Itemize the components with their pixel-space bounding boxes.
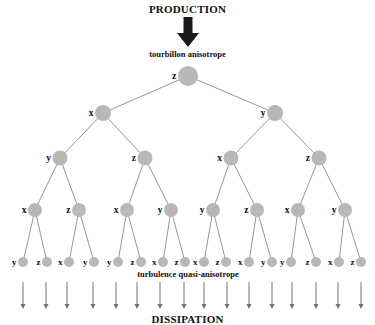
node-circle <box>356 257 366 267</box>
tree-node: z <box>244 203 264 217</box>
tree-node: z <box>131 257 147 267</box>
tree-node: y <box>332 203 352 217</box>
node-circle <box>95 105 111 121</box>
tree-edge <box>291 210 298 262</box>
tree-edge <box>79 210 94 262</box>
tree-edge <box>257 210 272 262</box>
dissipation-arrow-icon <box>182 282 187 309</box>
node-axis-label: y <box>12 257 17 267</box>
tree-edge <box>23 210 35 262</box>
tree-node: y <box>12 257 28 267</box>
tree-node: y <box>158 203 178 217</box>
dissipation-arrow-icon <box>225 282 230 309</box>
node-axis-label: x <box>114 205 119 215</box>
node-axis-label: y <box>107 257 112 267</box>
node-circle <box>338 203 352 217</box>
tree-edge <box>103 113 145 158</box>
node-circle <box>291 203 305 217</box>
node-circle <box>286 257 296 267</box>
production-title: PRODUCTION <box>0 3 375 15</box>
tree-node: y <box>261 105 283 121</box>
tree-node: z <box>175 257 191 267</box>
tree-node: x <box>193 257 209 267</box>
tree-node: x <box>58 257 74 267</box>
tree-node: x <box>152 257 168 267</box>
node-circle <box>244 257 254 267</box>
dissipation-arrow-icon <box>21 282 26 309</box>
tree-edge <box>35 158 60 210</box>
node-circle <box>334 257 344 267</box>
node-axis-label: y <box>280 257 285 267</box>
dissipation-arrows <box>21 282 364 309</box>
tree-edge <box>319 158 345 210</box>
node-circle <box>221 257 231 267</box>
tree-edge <box>163 210 171 262</box>
dissipation-arrow-icon <box>314 282 319 309</box>
tree-node: x <box>22 203 42 217</box>
node-axis-label: z <box>131 257 135 267</box>
dissipation-arrow-icon <box>247 282 252 309</box>
tree-nodes: zxyyzxzxzxyyzxyyzxyyzxzxzxyyzxz <box>12 66 366 267</box>
dissipation-title: DISSIPATION <box>0 313 375 325</box>
node-axis-label: x <box>89 108 94 118</box>
dissipation-arrow-icon <box>91 282 96 309</box>
node-circle <box>312 151 327 166</box>
node-axis-label: z <box>175 257 179 267</box>
tree-node: y <box>261 257 277 267</box>
node-circle <box>158 257 168 267</box>
tree-edge <box>69 210 79 262</box>
tree-node: x <box>114 203 134 217</box>
anisotropic-vortex-label: tourbillon anisotrope <box>0 49 375 59</box>
node-circle <box>72 203 86 217</box>
tree-edge <box>345 210 361 262</box>
tree-node: x <box>285 203 305 217</box>
tree-node: x <box>89 105 111 121</box>
dissipation-arrow-icon <box>290 282 295 309</box>
production-arrow-icon <box>177 17 199 47</box>
tree-edge <box>127 210 141 262</box>
node-circle <box>42 257 52 267</box>
node-circle <box>18 257 28 267</box>
tree-node: z <box>306 257 322 267</box>
tree-node: x <box>238 257 254 267</box>
node-axis-label: z <box>66 205 71 215</box>
node-circle <box>64 257 74 267</box>
tree-node: y <box>200 203 220 217</box>
quasi-anisotropic-turbulence-label: turbulence quasi-anisotrope <box>118 269 258 279</box>
node-circle <box>206 203 220 217</box>
node-axis-label: y <box>200 205 205 215</box>
node-circle <box>138 151 153 166</box>
node-axis-label: y <box>158 205 163 215</box>
tree-node: x <box>328 257 344 267</box>
tree-node: z <box>306 151 327 166</box>
node-axis-label: y <box>332 205 337 215</box>
node-axis-label: x <box>328 257 333 267</box>
tree-edge <box>118 210 127 262</box>
dissipation-arrow-icon <box>65 282 70 309</box>
dissipation-arrow-icon <box>202 282 207 309</box>
node-axis-label: x <box>58 257 63 267</box>
node-circle <box>136 257 146 267</box>
tree-node: y <box>107 257 123 267</box>
node-circle <box>250 203 264 217</box>
node-circle <box>180 257 190 267</box>
dissipation-arrow-icon <box>270 282 275 309</box>
node-circle <box>113 257 123 267</box>
tree-edge <box>213 210 226 262</box>
tree-edge <box>60 113 103 158</box>
dissipation-arrow-icon <box>44 282 49 309</box>
tree-edge <box>249 210 257 262</box>
tree-edge <box>298 158 319 210</box>
node-axis-label: z <box>216 257 220 267</box>
dissipation-arrow-icon <box>336 282 341 309</box>
node-axis-label: x <box>152 257 157 267</box>
tree-node: z <box>37 257 53 267</box>
tree-edge <box>145 158 171 210</box>
node-axis-label: z <box>172 70 177 81</box>
node-circle <box>120 203 134 217</box>
dissipation-arrow-icon <box>158 282 163 309</box>
dissipation-arrow-icon <box>359 282 364 309</box>
tree-edge <box>204 210 213 262</box>
node-circle <box>199 257 209 267</box>
node-axis-label: x <box>193 257 198 267</box>
